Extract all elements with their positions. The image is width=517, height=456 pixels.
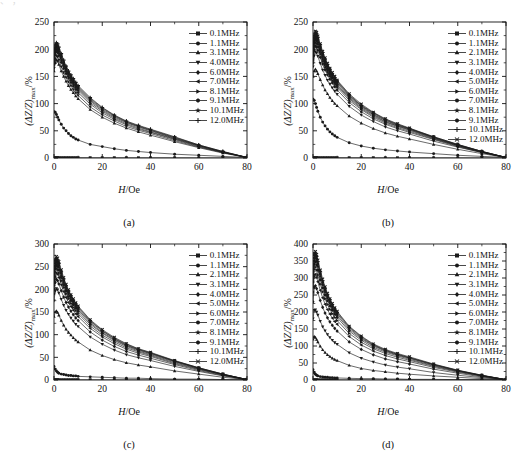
x-axis-tick-label: 80	[242, 162, 252, 172]
series-marker	[89, 375, 92, 378]
legend-label: 5.0MHz	[469, 77, 499, 86]
triangle-right-marker-icon	[188, 87, 208, 96]
x-axis-label-c: H/Oe	[0, 406, 258, 417]
x-axis-tick-label: 0	[52, 162, 57, 172]
circle-marker-icon	[188, 39, 208, 48]
y-axis-label-unit: /%	[23, 298, 34, 309]
panel-caption-b: (b)	[259, 217, 517, 228]
legend-item: 4.0MHz	[188, 58, 244, 68]
circle-marker-icon	[188, 318, 208, 327]
series-marker	[331, 133, 334, 136]
plot-area-a: 050100150200250020406080 (ΔZ/Z)max/% H/O…	[0, 6, 258, 196]
y-axis-label-d: (ΔZ/Z)max/%	[282, 263, 296, 383]
legend-d: 0.1MHz1.1MHz2.1MHz3.1MHz4.0MHz5.0MHz6.0M…	[447, 251, 503, 366]
legend-item: 12.0MHz	[188, 115, 244, 125]
x-axis-tick-label: 20	[98, 162, 108, 172]
series-marker	[316, 110, 319, 113]
series-marker	[67, 132, 70, 135]
series-marker	[331, 356, 334, 359]
series-marker	[101, 145, 104, 148]
plus-marker-icon	[447, 347, 467, 356]
triangle-right-marker-icon	[188, 309, 208, 318]
diamond-marker-icon	[188, 68, 208, 77]
series-marker	[137, 150, 140, 153]
x-axis-tick-label: 20	[98, 384, 108, 394]
plot-area-d: 050100150200250300350400020406080 (ΔZ/Z)…	[259, 228, 517, 418]
triangle-down-marker-icon	[447, 280, 467, 289]
circle-marker-icon	[447, 261, 467, 270]
series-marker	[57, 292, 60, 295]
x-axis-label-d: H/Oe	[259, 406, 517, 417]
legend-label: 0.1MHz	[210, 29, 240, 38]
triangle-up-marker-icon	[447, 270, 467, 279]
figure-page: 、 ， 050100150200250020406080 (ΔZ/Z)max/%…	[0, 0, 517, 456]
legend-label: 10.1MHz	[210, 347, 244, 356]
series-marker	[74, 374, 77, 377]
series-marker	[173, 156, 176, 159]
y-axis-tick-label: 0	[44, 153, 49, 163]
series-marker	[384, 148, 387, 151]
panel-a: 050100150200250020406080 (ΔZ/Z)max/% H/O…	[0, 6, 258, 234]
y-axis-tick-label: 0	[44, 375, 49, 385]
y-axis-tick-label: 50	[40, 353, 50, 363]
diamond-marker-icon	[447, 290, 467, 299]
series-marker	[60, 373, 63, 376]
series-marker	[326, 128, 329, 131]
cross-marker-icon	[447, 135, 467, 144]
series-marker	[360, 156, 363, 159]
series-marker	[137, 377, 140, 380]
legend-item: 3.1MHz	[188, 280, 244, 290]
legend-label: 10.1MHz	[210, 106, 244, 115]
x-axis-tick-label: 20	[357, 384, 367, 394]
series-marker	[77, 156, 80, 159]
series-marker	[67, 84, 70, 87]
y-axis-label-b: (ΔZ/Z)max/%	[282, 41, 296, 161]
cross-marker-icon	[447, 357, 467, 366]
series-marker	[384, 378, 387, 381]
legend-label: 4.0MHz	[210, 58, 240, 67]
series-marker	[149, 377, 152, 380]
legend-b: 0.1MHz1.1MHz2.1MHz3.1MHz4.0MHz5.0MHz6.0M…	[447, 29, 503, 144]
series-marker	[137, 156, 140, 159]
x-axis-tick-label: 20	[357, 162, 367, 172]
panel-d: 050100150200250300350400020406080 (ΔZ/Z)…	[259, 228, 517, 456]
series-marker	[173, 153, 176, 156]
legend-label: 10.1MHz	[469, 347, 503, 356]
series-marker	[89, 143, 92, 146]
series-marker	[335, 343, 338, 346]
panel-c: 050100150200250300020406080 (ΔZ/Z)max/% …	[0, 228, 258, 456]
triangle-up-marker-icon	[188, 48, 208, 57]
series-marker	[62, 127, 65, 130]
star-marker-icon	[188, 106, 208, 115]
series-marker	[323, 311, 326, 315]
series-marker	[62, 373, 65, 376]
series-marker	[372, 147, 375, 150]
series-marker	[52, 67, 55, 70]
legend-label: 0.1MHz	[469, 29, 499, 38]
triangle-left-marker-icon	[447, 77, 467, 86]
panel-caption-d: (d)	[259, 439, 517, 450]
legend-label: 12.0MHz	[210, 357, 244, 366]
series-marker	[315, 106, 318, 109]
series-marker	[221, 155, 224, 158]
series-marker	[360, 377, 363, 380]
y-axis-label-main: (ΔZ/Z)	[23, 99, 34, 125]
y-axis-tick-label: 0	[303, 375, 308, 385]
triangle-left-marker-icon	[188, 299, 208, 308]
series-marker	[62, 323, 65, 326]
series-marker	[149, 151, 152, 154]
legend-item: 12.0MHz	[447, 357, 503, 367]
y-axis-label-subscript: max	[288, 309, 296, 321]
series-marker	[396, 149, 399, 152]
legend-c: 0.1MHz1.1MHz2.1MHz3.1MHz4.0MHz5.0MHz6.0M…	[188, 251, 244, 366]
plus-marker-icon	[447, 125, 467, 134]
series-marker	[316, 314, 319, 317]
y-axis-label-subscript: max	[288, 87, 296, 99]
series-marker	[89, 156, 92, 159]
plot-area-c: 050100150200250300020406080 (ΔZ/Z)max/% …	[0, 228, 258, 418]
square-marker-icon	[188, 29, 208, 38]
series-marker	[149, 156, 152, 159]
series-marker	[57, 313, 60, 316]
series-marker	[62, 304, 65, 307]
series-marker	[72, 136, 75, 139]
